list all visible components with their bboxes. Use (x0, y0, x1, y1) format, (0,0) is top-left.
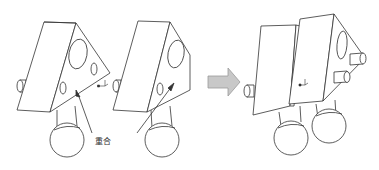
ball-c2 (312, 109, 346, 143)
peg-right-c1 (350, 53, 366, 65)
ball-a (50, 123, 84, 157)
transition-arrow-icon (208, 68, 240, 96)
wedge-part-b (113, 21, 190, 157)
hole-small2-a (60, 82, 66, 94)
peg-right-c2 (334, 71, 350, 83)
coincide-label: 重合 (95, 135, 111, 146)
peg-left-c (244, 85, 254, 97)
assembled-part (244, 14, 366, 155)
hole-small-a (91, 63, 97, 75)
assembly-diagram (0, 0, 379, 170)
hole-small-b (157, 83, 163, 95)
coord-marker-a (98, 80, 109, 87)
ball-b (145, 123, 179, 157)
ball-c1 (274, 121, 308, 155)
annotation-pointer (76, 90, 92, 133)
